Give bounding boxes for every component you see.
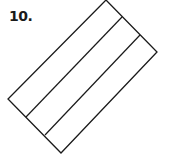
rotated-rectangle-diagram: [0, 0, 173, 161]
outer-rectangle: [8, 0, 157, 153]
